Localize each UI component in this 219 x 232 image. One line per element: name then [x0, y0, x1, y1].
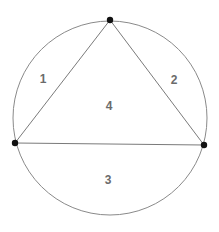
region-label-1: 1: [40, 72, 47, 86]
diagram-canvas: 1 2 3 4: [0, 0, 219, 232]
vertex-point-right: [201, 142, 207, 148]
region-label-4: 4: [106, 99, 113, 113]
vertex-point-left: [12, 140, 18, 146]
region-label-2: 2: [171, 73, 178, 87]
vertex-point-top: [107, 17, 113, 23]
region-label-3: 3: [105, 173, 112, 187]
